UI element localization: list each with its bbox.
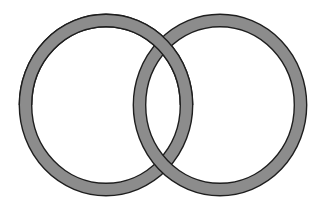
rings-svg (0, 0, 326, 211)
interlocking-rings-diagram (0, 0, 326, 211)
